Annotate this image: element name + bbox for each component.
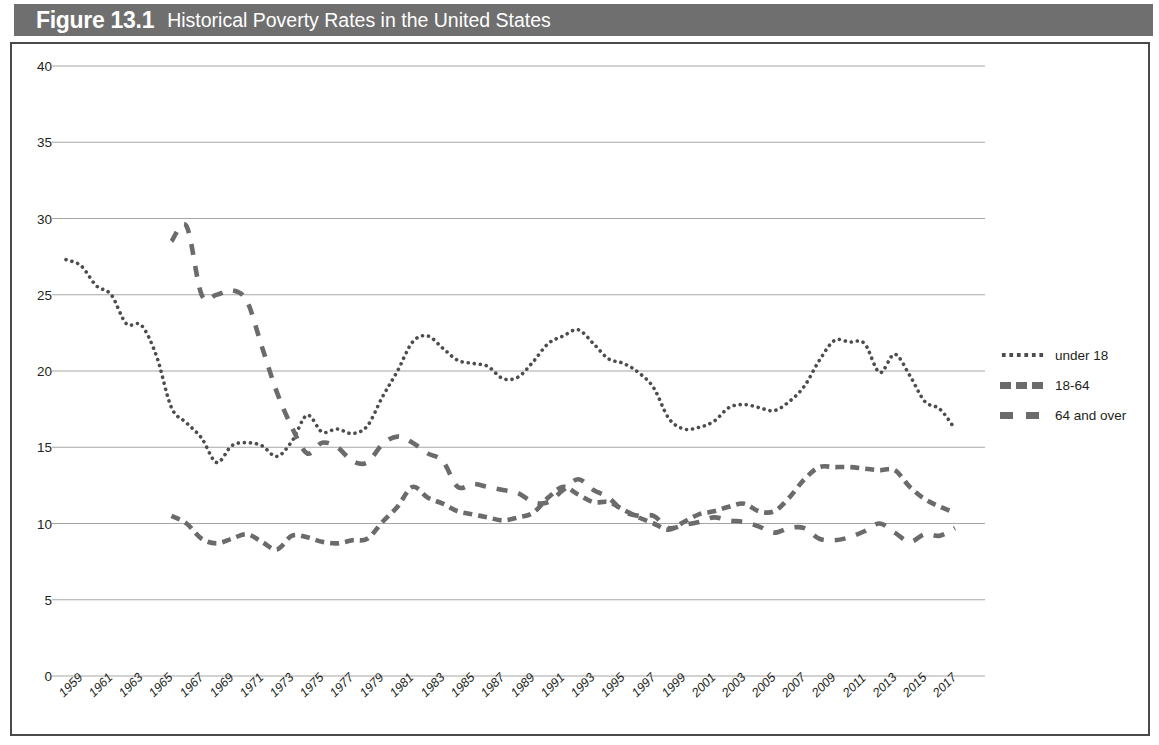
figure-frame — [10, 42, 1150, 736]
figure-number: Figure 13.1 — [36, 7, 154, 34]
legend-label-under-18: under 18 — [1055, 348, 1108, 363]
legend-swatch-dashed-icon — [1000, 380, 1046, 390]
legend-item-18-64: 18-64 — [1000, 370, 1150, 400]
chart-legend: under 18 18-64 64 and over — [1000, 340, 1150, 430]
legend-item-under-18: under 18 — [1000, 340, 1150, 370]
legend-item-64-and-over: 64 and over — [1000, 400, 1150, 430]
legend-swatch-dotted-icon — [1000, 350, 1046, 360]
legend-label-64-and-over: 64 and over — [1055, 408, 1126, 423]
legend-swatch-long-dashed-icon — [1000, 410, 1046, 420]
figure-title: Historical Poverty Rates in the United S… — [167, 9, 551, 32]
figure-title-banner: Figure 13.1 Historical Poverty Rates in … — [14, 4, 1153, 36]
legend-label-18-64: 18-64 — [1055, 378, 1090, 393]
